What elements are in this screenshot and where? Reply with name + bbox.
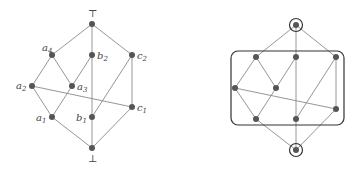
node-bottom [293,147,299,153]
node-a3 [69,83,75,89]
node-b1 [89,114,95,120]
node-c1 [333,106,339,112]
node-top [293,22,299,28]
node-c2 [129,52,135,58]
node-a3 [273,85,279,91]
node-a1 [253,116,259,122]
label-c2: c2 [137,50,148,63]
right-nodes [232,22,339,153]
label-b1: b1 [76,112,87,125]
right-lattice [231,19,344,157]
node-b1 [293,116,299,122]
label-a3: a3 [77,81,88,94]
right-edges [235,25,336,150]
group-box [231,51,344,125]
node-b2 [293,54,299,60]
node-c2 [333,54,339,60]
label-bottom: ⊥ [88,153,97,164]
node-a2 [232,85,238,91]
label-a1: a1 [36,112,46,125]
diagram-canvas: ⊤ ⊥ a4 b2 c2 a2 a3 c1 a1 b1 [0,0,360,170]
node-b2 [89,52,95,58]
label-a4: a4 [42,42,52,55]
label-c1: c1 [137,102,147,115]
label-b2: b2 [97,50,108,63]
node-c1 [129,104,135,110]
left-lattice: ⊤ ⊥ a4 b2 c2 a2 a3 c1 a1 b1 [16,8,148,164]
node-top [89,21,95,27]
node-a1 [49,114,55,120]
node-bottom [89,145,95,151]
label-a2: a2 [16,80,27,93]
label-top: ⊤ [88,8,97,19]
node-a4 [253,54,259,60]
node-a2 [29,83,35,89]
